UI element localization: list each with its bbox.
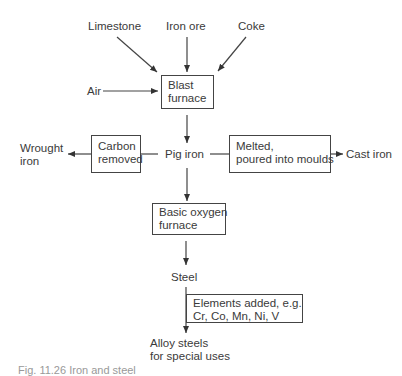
blast-furnace-line2: furnace xyxy=(168,92,213,105)
alloy-steels-label: Alloy steels for special uses xyxy=(150,337,230,362)
input-air: Air xyxy=(87,85,101,98)
blast-furnace-box: Blast furnace xyxy=(161,75,214,109)
figure-caption: Fig. 11.26 Iron and steel xyxy=(18,364,136,376)
bof-line2: furnace xyxy=(159,219,225,232)
blast-furnace-line1: Blast xyxy=(168,79,213,92)
carbon-removed-box: Carbon removed xyxy=(91,135,141,173)
melted-box: Melted, poured into moulds xyxy=(229,135,331,173)
cast-iron-label: Cast iron xyxy=(346,148,392,161)
elements-added-box: Elements added, e.g. Cr, Co, Mn, Ni, V xyxy=(186,294,303,323)
input-coke: Coke xyxy=(238,20,265,33)
arrow-limestone xyxy=(117,37,157,72)
wrought-iron-label: Wrought iron xyxy=(20,142,63,167)
pig-iron-label: Pig iron xyxy=(165,148,204,161)
basic-oxygen-furnace-box: Basic oxygen furnace xyxy=(152,203,226,235)
bof-line1: Basic oxygen xyxy=(159,206,225,219)
steel-label: Steel xyxy=(171,271,197,284)
carbon-removed-line2: removed xyxy=(98,153,140,166)
alloy-line1: Alloy steels xyxy=(150,337,230,350)
wrought-iron-line1: Wrought xyxy=(20,142,63,155)
input-iron-ore: Iron ore xyxy=(166,20,206,33)
alloy-line2: for special uses xyxy=(150,350,230,363)
carbon-removed-line1: Carbon xyxy=(98,140,140,153)
arrow-coke xyxy=(218,37,246,71)
wrought-iron-line2: iron xyxy=(20,155,63,168)
elements-line2: Cr, Co, Mn, Ni, V xyxy=(193,310,302,323)
elements-line1: Elements added, e.g. xyxy=(193,297,302,310)
melted-line1: Melted, xyxy=(236,140,330,153)
melted-line2: poured into moulds xyxy=(236,153,330,166)
input-limestone: Limestone xyxy=(88,20,141,33)
